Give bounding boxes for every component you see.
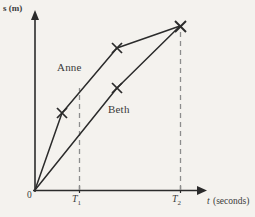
distance-time-graph-figure: s (m) t (seconds) 0 T1 T2 Anne Beth [0, 0, 255, 217]
y-axis-label: s (m) [3, 4, 22, 13]
x-axis-arrowhead [197, 186, 207, 195]
tick-t1-subscript: 1 [78, 199, 82, 207]
x-tick-label-t2: T2 [172, 194, 181, 207]
x-axis-unit-label: (seconds) [213, 197, 249, 207]
tick-t2-subscript: 2 [178, 199, 182, 207]
series-label-anne: Anne [57, 62, 82, 73]
series-label-beth: Beth [108, 104, 130, 115]
x-tick-label-t1: T1 [72, 194, 81, 207]
x-axis-variable-label: t [207, 197, 210, 207]
y-axis-arrowhead [31, 10, 39, 20]
origin-label: 0 [27, 191, 32, 201]
beth-markers [112, 83, 122, 93]
